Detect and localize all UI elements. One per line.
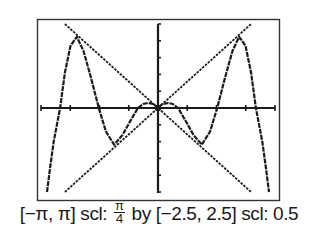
y-range-label: by [−2.5, 2.5] scl: 0.5 [127,203,299,224]
origin-point [155,105,161,111]
xscl-fraction: π4 [114,200,125,225]
window-settings-caption: [−π, π] scl: π4 by [−2.5, 2.5] scl: 0.5 [0,202,318,233]
graph-screen [0,0,318,202]
xscl-denominator: 4 [114,213,125,225]
x-range-label: [−π, π] scl: [20,203,112,224]
